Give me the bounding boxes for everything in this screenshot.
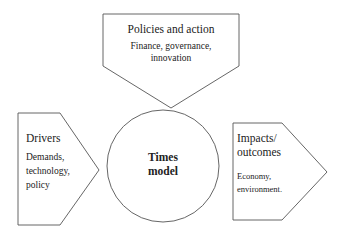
top-node: Policies and action Finance, governance,… [103, 22, 239, 65]
left-node-sub-1: Demands, [26, 151, 96, 165]
right-node-title-1: Impacts/ [237, 131, 317, 145]
left-node: Drivers Demands, technology, policy [26, 131, 96, 193]
right-node-sub-2: environment. [237, 183, 317, 197]
right-node: Impacts/ outcomes Economy, environment. [237, 131, 317, 197]
top-node-sub-2: innovation [103, 53, 239, 65]
top-node-title: Policies and action [103, 22, 239, 36]
left-node-sub-2: technology, [26, 165, 96, 179]
right-node-sub-1: Economy, [237, 170, 317, 184]
center-node-title-2: model [123, 164, 203, 178]
left-node-sub-3: policy [26, 179, 96, 193]
center-node: Times model [123, 150, 203, 179]
top-node-sub-1: Finance, governance, [103, 41, 239, 53]
left-node-title: Drivers [26, 131, 96, 145]
right-node-title-2: outcomes [237, 145, 317, 159]
center-node-title-1: Times [123, 150, 203, 164]
